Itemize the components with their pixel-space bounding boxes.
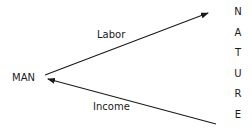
- nature-letter: E: [235, 109, 241, 129]
- nature-letter: N: [234, 6, 241, 27]
- income-edge-label: Income: [93, 101, 130, 113]
- nature-letter: T: [235, 47, 241, 68]
- nature-node-label: N A T U R E: [232, 6, 244, 128]
- nature-letter: U: [234, 68, 241, 89]
- labor-edge-label: Labor: [97, 29, 125, 41]
- labor-arrow: [45, 13, 208, 75]
- income-arrow: [48, 79, 216, 124]
- nature-letter: R: [235, 88, 242, 109]
- man-node-label: MAN: [12, 72, 35, 84]
- nature-letter: A: [235, 27, 242, 48]
